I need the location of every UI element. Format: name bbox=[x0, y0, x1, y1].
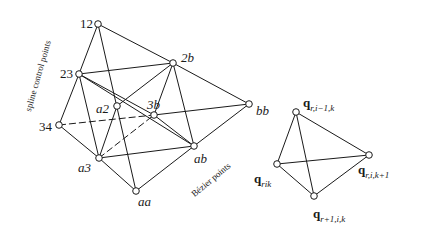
node-a3 bbox=[96, 155, 103, 162]
node-3b bbox=[151, 112, 158, 119]
node-bb bbox=[246, 101, 253, 108]
label-q-top: qr,i−1,k bbox=[303, 96, 334, 113]
label-34: 34 bbox=[39, 120, 52, 133]
label-q-bottom: qr+1,i,k bbox=[313, 207, 345, 224]
label-q-right: qr,i,k+1 bbox=[358, 163, 389, 180]
node-ab bbox=[191, 143, 198, 150]
node-q-bottom bbox=[311, 193, 318, 200]
label-12: 12 bbox=[80, 17, 93, 30]
node-2b bbox=[170, 60, 177, 67]
node-q-left bbox=[274, 161, 281, 168]
label-ab: ab bbox=[194, 152, 207, 165]
node-a2 bbox=[114, 103, 121, 110]
node-q-right bbox=[366, 152, 373, 159]
label-bb: bb bbox=[256, 104, 269, 117]
right-tetrahedron-edges bbox=[277, 112, 369, 196]
node-23 bbox=[76, 71, 83, 78]
node-q-top bbox=[293, 109, 300, 116]
node-34 bbox=[56, 122, 63, 129]
node-12 bbox=[95, 21, 102, 28]
tetrahedra-diagram bbox=[0, 0, 421, 235]
label-q-left: qrik bbox=[254, 172, 271, 189]
label-3b: 3b bbox=[147, 98, 160, 111]
label-a2: a2 bbox=[96, 102, 109, 115]
right-tetrahedron-nodes bbox=[274, 109, 373, 200]
label-2b: 2b bbox=[181, 51, 194, 64]
label-a3: a3 bbox=[78, 161, 91, 174]
label-23: 23 bbox=[60, 67, 73, 80]
label-aa: aa bbox=[138, 195, 151, 208]
